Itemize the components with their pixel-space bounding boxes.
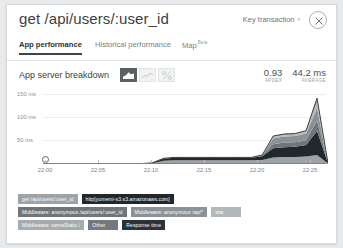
legend-chip[interactable]: Middleware: serveStatic / bbox=[18, 220, 84, 230]
tab-map[interactable]: MapBeta bbox=[182, 40, 207, 55]
x-axis-label: 22:15 bbox=[197, 167, 212, 173]
x-axis-label: 22:10 bbox=[144, 167, 159, 173]
close-icon bbox=[314, 16, 324, 26]
legend-row: Middleware: serveStatic / Other Response… bbox=[18, 220, 328, 230]
y-axis-label: 50 ms bbox=[17, 137, 33, 143]
stat-label: AVERAGE bbox=[292, 78, 326, 84]
chart-stats: 0.93 APDEX 44.2 ms AVERAGE bbox=[254, 67, 326, 84]
stat-average: 44.2 ms AVERAGE bbox=[292, 67, 326, 84]
transaction-detail-card: get /api/users/:user_id Key transaction›… bbox=[6, 4, 337, 244]
close-button[interactable] bbox=[309, 11, 327, 29]
legend-chip[interactable]: http[yumemi-s3.s3.amazonaws.com] bbox=[82, 194, 174, 204]
chart-legend: get /api/users/:user_id http[yumemi-s3.s… bbox=[18, 194, 328, 233]
x-axis-label: 22:05 bbox=[91, 167, 106, 173]
legend-chip[interactable]: Middleware: anonymous /api/users/:user_i… bbox=[18, 207, 127, 217]
chart-title: App server breakdown bbox=[19, 70, 109, 80]
x-tick bbox=[257, 160, 258, 163]
x-tick bbox=[151, 160, 152, 163]
stat-label: APDEX bbox=[264, 78, 283, 84]
line-chart-icon bbox=[142, 71, 153, 79]
percent-chart-toggle[interactable] bbox=[158, 68, 175, 82]
stacked-area-series bbox=[43, 92, 328, 164]
y-axis-label: 100 ms bbox=[17, 114, 36, 120]
stat-value: 44.2 ms bbox=[292, 67, 326, 78]
y-axis-label: 150 ms bbox=[17, 91, 36, 97]
legend-chip[interactable]: stat bbox=[211, 207, 241, 217]
area-chart-toggle[interactable] bbox=[120, 68, 137, 82]
x-tick bbox=[98, 160, 99, 163]
x-axis-label: 22:20 bbox=[250, 167, 265, 173]
tab-label: Map bbox=[182, 41, 197, 50]
x-tick bbox=[310, 160, 311, 163]
tab-historical-performance[interactable]: Historical performance bbox=[95, 40, 171, 54]
legend-chip[interactable]: Other bbox=[88, 220, 118, 230]
stat-apdex: 0.93 APDEX bbox=[264, 67, 283, 84]
tab-bar: App performance Historical performance M… bbox=[7, 40, 336, 61]
tab-label: Historical performance bbox=[95, 40, 171, 49]
page-title: get /api/users/:user_id bbox=[19, 10, 169, 27]
chart-header-row: App server breakdown bbox=[7, 67, 336, 89]
beta-badge: Beta bbox=[198, 40, 207, 45]
stat-value: 0.93 bbox=[264, 67, 283, 78]
x-tick bbox=[45, 160, 46, 163]
line-chart-toggle[interactable] bbox=[139, 68, 156, 82]
legend-row: Middleware: anonymous /api/users/:user_i… bbox=[18, 207, 328, 217]
x-axis bbox=[43, 163, 326, 164]
area-chart-icon bbox=[123, 71, 134, 79]
x-axis-label: 22:25 bbox=[303, 167, 318, 173]
legend-chip[interactable]: Response time bbox=[122, 220, 165, 230]
x-axis-label: 22:00 bbox=[38, 167, 53, 173]
chevron-right-icon: › bbox=[298, 15, 301, 24]
card-header: get /api/users/:user_id Key transaction› bbox=[7, 5, 336, 36]
legend-chip[interactable]: get /api/users/:user_id bbox=[18, 194, 78, 204]
percent-icon bbox=[162, 71, 172, 80]
key-transaction-label: Key transaction bbox=[243, 15, 295, 24]
x-tick bbox=[204, 160, 205, 163]
chart-type-controls bbox=[120, 68, 177, 82]
chart-plot-area[interactable]: 150 ms 100 ms 50 ms 22:00 22:05 22:10 22… bbox=[17, 92, 326, 176]
key-transaction-link[interactable]: Key transaction› bbox=[243, 15, 300, 24]
legend-row: get /api/users/:user_id http[yumemi-s3.s… bbox=[18, 194, 328, 204]
tab-app-performance[interactable]: App performance bbox=[19, 40, 82, 54]
legend-chip[interactable]: Middleware: anonymous /ap/* bbox=[131, 207, 208, 217]
tab-label: App performance bbox=[19, 40, 82, 49]
